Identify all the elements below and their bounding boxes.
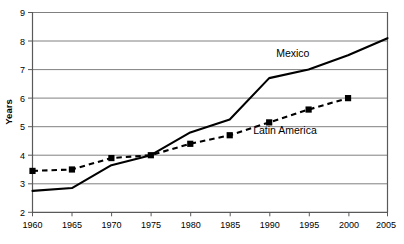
data-point-marker — [227, 132, 233, 138]
data-point-marker — [306, 106, 312, 112]
plot-background — [32, 12, 388, 212]
x-tick-label-1980: 1980 — [181, 220, 201, 230]
years-of-schooling-line-chart: 9 8 7 6 5 4 3 2 1960 1965 1970 1975 1980… — [0, 0, 404, 244]
x-tick-labels: 1960 1965 1970 1975 1980 1985 1990 1995 … — [22, 220, 396, 230]
y-tick-label-2: 2 — [20, 208, 25, 218]
x-tick-label-2005: 2005 — [376, 220, 396, 230]
y-tick-label-5: 5 — [20, 122, 25, 132]
y-tick-label-8: 8 — [20, 37, 25, 47]
series-annotation-mexico: Mexico — [276, 47, 309, 59]
x-tick-label-1975: 1975 — [141, 220, 161, 230]
y-tick-labels: 9 8 7 6 5 4 3 2 — [20, 8, 25, 218]
y-tick-marks — [28, 13, 32, 213]
x-tick-label-1995: 1995 — [299, 220, 319, 230]
x-tick-label-1985: 1985 — [220, 220, 240, 230]
y-tick-label-4: 4 — [20, 151, 25, 161]
data-point-marker — [187, 141, 193, 147]
chart-container: 9 8 7 6 5 4 3 2 1960 1965 1970 1975 1980… — [0, 0, 404, 244]
x-tick-label-1960: 1960 — [22, 220, 42, 230]
series-annotation-latin-america: Latin America — [253, 124, 317, 136]
x-tick-label-1990: 1990 — [260, 220, 280, 230]
x-tick-label-1965: 1965 — [62, 220, 82, 230]
data-point-marker — [148, 152, 154, 158]
y-tick-label-3: 3 — [20, 179, 25, 189]
y-tick-label-7: 7 — [20, 65, 25, 75]
data-point-marker — [345, 95, 351, 101]
data-point-marker — [69, 166, 75, 172]
y-axis-title: Years — [3, 99, 14, 124]
x-tick-marks — [33, 212, 388, 216]
x-tick-label-1970: 1970 — [102, 220, 122, 230]
y-tick-label-9: 9 — [20, 8, 25, 18]
data-point-marker — [29, 168, 35, 174]
y-tick-label-6: 6 — [20, 94, 25, 104]
x-tick-label-2000: 2000 — [339, 220, 359, 230]
data-point-marker — [108, 155, 114, 161]
